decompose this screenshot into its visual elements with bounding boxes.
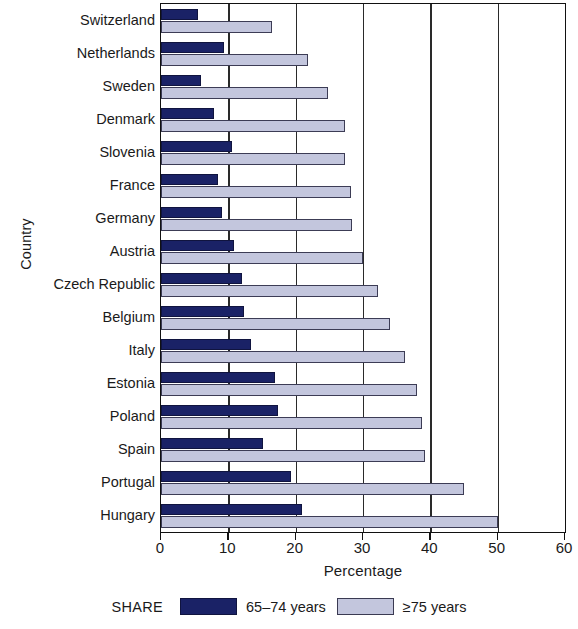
bar-poland-series-0 (161, 405, 278, 417)
bar-germany-series-1 (161, 219, 352, 231)
bar-portugal-series-0 (161, 471, 291, 483)
bar-switzerland-series-1 (161, 21, 272, 33)
category-label-netherlands: Netherlands (10, 46, 155, 61)
bar-switzerland-series-0 (161, 9, 198, 21)
x-tick-label-10: 10 (219, 539, 236, 556)
category-label-denmark: Denmark (10, 112, 155, 127)
legend-swatch-65-74 (180, 598, 237, 615)
gridline-50 (498, 4, 499, 532)
category-label-sweden: Sweden (10, 79, 155, 94)
x-axis-title: Percentage (160, 562, 566, 579)
gridline-40 (430, 4, 431, 532)
bar-france-series-0 (161, 174, 218, 186)
bar-austria-series-1 (161, 252, 363, 264)
bar-spain-series-0 (161, 438, 263, 450)
x-tick-label-30: 30 (354, 539, 371, 556)
bar-netherlands-series-1 (161, 54, 308, 66)
legend-item-0: 65–74 years (180, 598, 326, 615)
legend-item-1: ≥75 years (337, 598, 467, 615)
legend-swatch-75-plus (337, 598, 394, 615)
bar-czech-republic-series-0 (161, 273, 242, 285)
bar-estonia-series-1 (161, 384, 417, 396)
plot-area (160, 3, 566, 533)
category-label-hungary: Hungary (10, 508, 155, 523)
category-label-italy: Italy (10, 343, 155, 358)
bar-denmark-series-1 (161, 120, 345, 132)
bar-belgium-series-1 (161, 318, 390, 330)
x-axis-tick-labels: 0102030405060 (160, 539, 566, 561)
bar-slovenia-series-1 (161, 153, 345, 165)
bar-chart-figure: Country SwitzerlandNetherlandsSwedenDenm… (0, 0, 578, 629)
x-tick-label-0: 0 (156, 539, 164, 556)
bar-sweden-series-1 (161, 87, 328, 99)
bar-france-series-1 (161, 186, 351, 198)
category-label-spain: Spain (10, 442, 155, 457)
category-label-france: France (10, 178, 155, 193)
bar-estonia-series-0 (161, 372, 275, 384)
bar-portugal-series-1 (161, 483, 464, 495)
category-label-slovenia: Slovenia (10, 145, 155, 160)
category-axis-labels: SwitzerlandNetherlandsSwedenDenmarkSlove… (10, 3, 155, 533)
bar-austria-series-0 (161, 240, 234, 252)
bar-belgium-series-0 (161, 306, 244, 318)
bar-netherlands-series-0 (161, 42, 224, 54)
x-tick-label-60: 60 (556, 539, 573, 556)
bar-hungary-series-1 (161, 516, 498, 528)
category-label-switzerland: Switzerland (10, 13, 155, 28)
bar-denmark-series-0 (161, 108, 214, 120)
x-tick-label-50: 50 (488, 539, 505, 556)
bar-slovenia-series-0 (161, 141, 232, 153)
category-label-poland: Poland (10, 409, 155, 424)
bar-italy-series-1 (161, 351, 405, 363)
legend-source-label: SHARE (112, 599, 163, 615)
category-label-germany: Germany (10, 211, 155, 226)
chart-legend: SHARE 65–74 years ≥75 years (0, 598, 578, 615)
category-label-austria: Austria (10, 244, 155, 259)
bar-poland-series-1 (161, 417, 422, 429)
bar-italy-series-0 (161, 339, 251, 351)
bar-czech-republic-series-1 (161, 285, 378, 297)
bar-hungary-series-0 (161, 504, 302, 516)
bar-sweden-series-0 (161, 75, 201, 87)
legend-label-65-74: 65–74 years (246, 599, 326, 615)
legend-label-75-plus: ≥75 years (403, 599, 467, 615)
category-label-czech-republic: Czech Republic (10, 277, 155, 292)
bar-germany-series-0 (161, 207, 222, 219)
category-label-portugal: Portugal (10, 475, 155, 490)
category-label-belgium: Belgium (10, 310, 155, 325)
bar-spain-series-1 (161, 450, 425, 462)
category-label-estonia: Estonia (10, 376, 155, 391)
x-tick-label-20: 20 (286, 539, 303, 556)
x-tick-label-40: 40 (421, 539, 438, 556)
